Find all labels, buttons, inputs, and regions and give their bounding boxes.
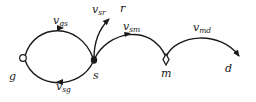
node-m-icon bbox=[163, 54, 169, 65]
node-label-g: g bbox=[9, 70, 16, 83]
node-label-d: d bbox=[225, 62, 232, 75]
node-s-icon bbox=[91, 56, 97, 64]
edge-label-sm: vsm bbox=[123, 20, 140, 34]
edge-label-md: vmd bbox=[193, 21, 211, 35]
edge-md bbox=[166, 38, 239, 57]
edge-sm bbox=[95, 34, 166, 58]
node-label-s: s bbox=[93, 69, 99, 82]
flow-diagram: g s m r d vgs vsg vsr vsm vmd bbox=[0, 0, 256, 102]
node-g-icon bbox=[20, 55, 27, 62]
node-label-m: m bbox=[161, 67, 171, 80]
edge-label-sr: vsr bbox=[92, 3, 106, 17]
node-label-r: r bbox=[120, 2, 126, 15]
edge-sr bbox=[94, 19, 109, 58]
edge-label-gs: vgs bbox=[53, 14, 68, 28]
edge-gs bbox=[25, 31, 93, 58]
